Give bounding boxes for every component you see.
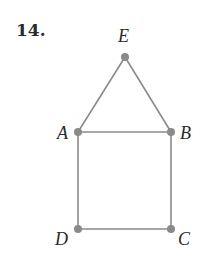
edges: [78, 57, 171, 229]
graph-diagram: E A B D C: [0, 0, 207, 271]
node-d: [74, 225, 82, 233]
nodes: [74, 53, 175, 233]
edge-e-a: [78, 57, 125, 132]
label-b: B: [180, 123, 191, 143]
label-a: A: [56, 123, 69, 143]
node-b: [167, 128, 175, 136]
edge-e-b: [125, 57, 171, 132]
label-e: E: [117, 26, 129, 46]
node-a: [74, 128, 82, 136]
label-d: D: [54, 229, 68, 249]
node-c: [167, 225, 175, 233]
label-c: C: [178, 229, 191, 249]
node-e: [121, 53, 129, 61]
